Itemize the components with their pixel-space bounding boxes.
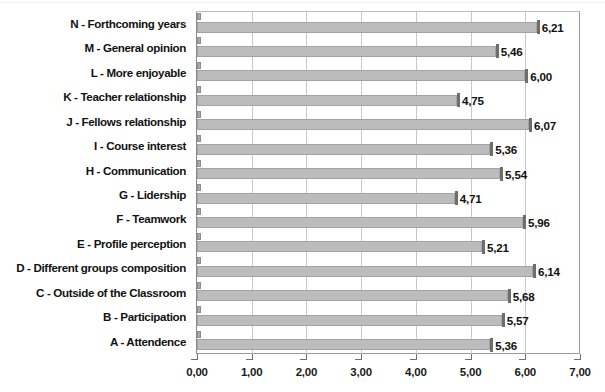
bar-mean <box>197 22 537 33</box>
bar-value-label: 5,54 <box>505 168 527 181</box>
bar-value-label: 4,75 <box>462 94 484 107</box>
bar-mean <box>197 46 496 57</box>
bar-secondary <box>197 184 201 191</box>
scan-artifact-line <box>0 2 605 3</box>
bar-mean <box>197 315 502 326</box>
bar-secondary <box>197 37 201 44</box>
bar-secondary <box>197 13 201 20</box>
x-tick-foot-3-00 <box>355 359 362 360</box>
bar-mean <box>197 241 482 252</box>
bar-secondary <box>197 306 201 313</box>
bar-secondary <box>197 257 201 264</box>
bar-end-marker <box>537 20 540 34</box>
bar-value-label: 6,21 <box>542 21 564 34</box>
chart-row: I - Course interest5,36 <box>0 134 605 158</box>
bar-secondary <box>197 282 201 289</box>
bar-value-label: 5,36 <box>495 339 517 352</box>
chart-row: G - Lidership4,71 <box>0 183 605 207</box>
x-axis-label: 6,00 <box>495 366 555 378</box>
bar-mean <box>197 290 508 301</box>
x-tick-foot-4-00 <box>410 359 417 360</box>
category-label: G - Lidership <box>0 188 186 201</box>
bar-end-marker <box>523 215 526 229</box>
bar-secondary <box>197 135 201 142</box>
bar-end-marker <box>533 264 536 278</box>
category-label: A - Attendence <box>0 335 186 348</box>
chart-row: M - General opinion5,46 <box>0 36 605 60</box>
bar-value-label: 5,46 <box>501 45 523 58</box>
bar-end-marker <box>496 44 499 58</box>
x-axis-label: 0,00 <box>167 366 227 378</box>
bar-value-label: 5,57 <box>507 314 529 327</box>
bar-value-label: 6,00 <box>530 70 552 83</box>
bar-end-marker <box>508 289 511 303</box>
chart-row: B - Participation5,57 <box>0 305 605 329</box>
bar-value-label: 4,71 <box>460 192 482 205</box>
x-tick-foot-7-00 <box>574 359 581 360</box>
x-axis-label: 7,00 <box>550 366 605 378</box>
x-tick-foot-6-00 <box>519 359 526 360</box>
x-tick-foot-5-00 <box>465 359 472 360</box>
bar-end-marker <box>490 338 493 352</box>
bar-end-marker <box>457 93 460 107</box>
x-tick-foot-1-00 <box>246 359 253 360</box>
bar-end-marker <box>455 191 458 205</box>
x-tick-foot-2-00 <box>300 359 307 360</box>
category-label: J - Fellows relationship <box>0 115 186 128</box>
bar-value-label: 6,14 <box>538 265 560 278</box>
x-tick-foot-0-00 <box>191 359 198 360</box>
chart-row: N - Forthcoming years6,21 <box>0 12 605 36</box>
category-label: D - Different groups composition <box>0 261 186 274</box>
chart-row: L - More enjoyable6,00 <box>0 61 605 85</box>
bar-end-marker <box>500 167 503 181</box>
bar-secondary <box>197 160 201 167</box>
category-label: H - Communication <box>0 164 186 177</box>
bar-secondary <box>197 233 201 240</box>
bar-mean <box>197 217 523 228</box>
chart-row: E - Profile perception5,21 <box>0 232 605 256</box>
bar-end-marker <box>490 142 493 156</box>
bar-value-label: 5,96 <box>528 216 550 229</box>
bar-end-marker <box>529 118 532 132</box>
x-axis-label: 5,00 <box>441 366 501 378</box>
chart-row: C - Outside of the Classroom5,68 <box>0 281 605 305</box>
x-axis-label: 3,00 <box>331 366 391 378</box>
x-axis-label: 2,00 <box>276 366 336 378</box>
bar-secondary <box>197 111 201 118</box>
category-label: B - Participation <box>0 310 186 323</box>
category-label: F - Teamwork <box>0 212 186 225</box>
chart-row: A - Attendence5,36 <box>0 330 605 354</box>
bar-value-label: 6,07 <box>534 119 556 132</box>
chart-row: J - Fellows relationship6,07 <box>0 110 605 134</box>
bar-value-label: 5,68 <box>513 290 535 303</box>
bar-mean <box>197 70 525 81</box>
x-axis-label: 1,00 <box>222 366 282 378</box>
bar-mean <box>197 119 529 130</box>
bar-secondary <box>197 331 201 338</box>
category-label: I - Course interest <box>0 139 186 152</box>
bar-end-marker <box>502 313 505 327</box>
chart-row: K - Teacher relationship4,75 <box>0 85 605 109</box>
bar-mean <box>197 339 490 350</box>
chart-row: F - Teamwork5,96 <box>0 207 605 231</box>
x-axis-label: 4,00 <box>386 366 446 378</box>
bar-value-label: 5,36 <box>495 143 517 156</box>
bar-mean <box>197 168 500 179</box>
bar-mean <box>197 193 455 204</box>
category-label: N - Forthcoming years <box>0 17 186 30</box>
category-label: L - More enjoyable <box>0 66 186 79</box>
bar-secondary <box>197 86 201 93</box>
bar-value-label: 5,21 <box>487 241 509 254</box>
category-label: E - Profile perception <box>0 237 186 250</box>
category-label: C - Outside of the Classroom <box>0 286 186 299</box>
bar-chart: 0,001,002,003,004,005,006,007,00 N - For… <box>0 0 605 392</box>
bar-mean <box>197 266 533 277</box>
bar-secondary <box>197 208 201 215</box>
category-label: K - Teacher relationship <box>0 90 186 103</box>
category-label: M - General opinion <box>0 41 186 54</box>
bar-end-marker <box>482 240 485 254</box>
bar-mean <box>197 144 490 155</box>
bar-end-marker <box>525 69 528 83</box>
bar-mean <box>197 95 457 106</box>
chart-row: H - Communication5,54 <box>0 159 605 183</box>
